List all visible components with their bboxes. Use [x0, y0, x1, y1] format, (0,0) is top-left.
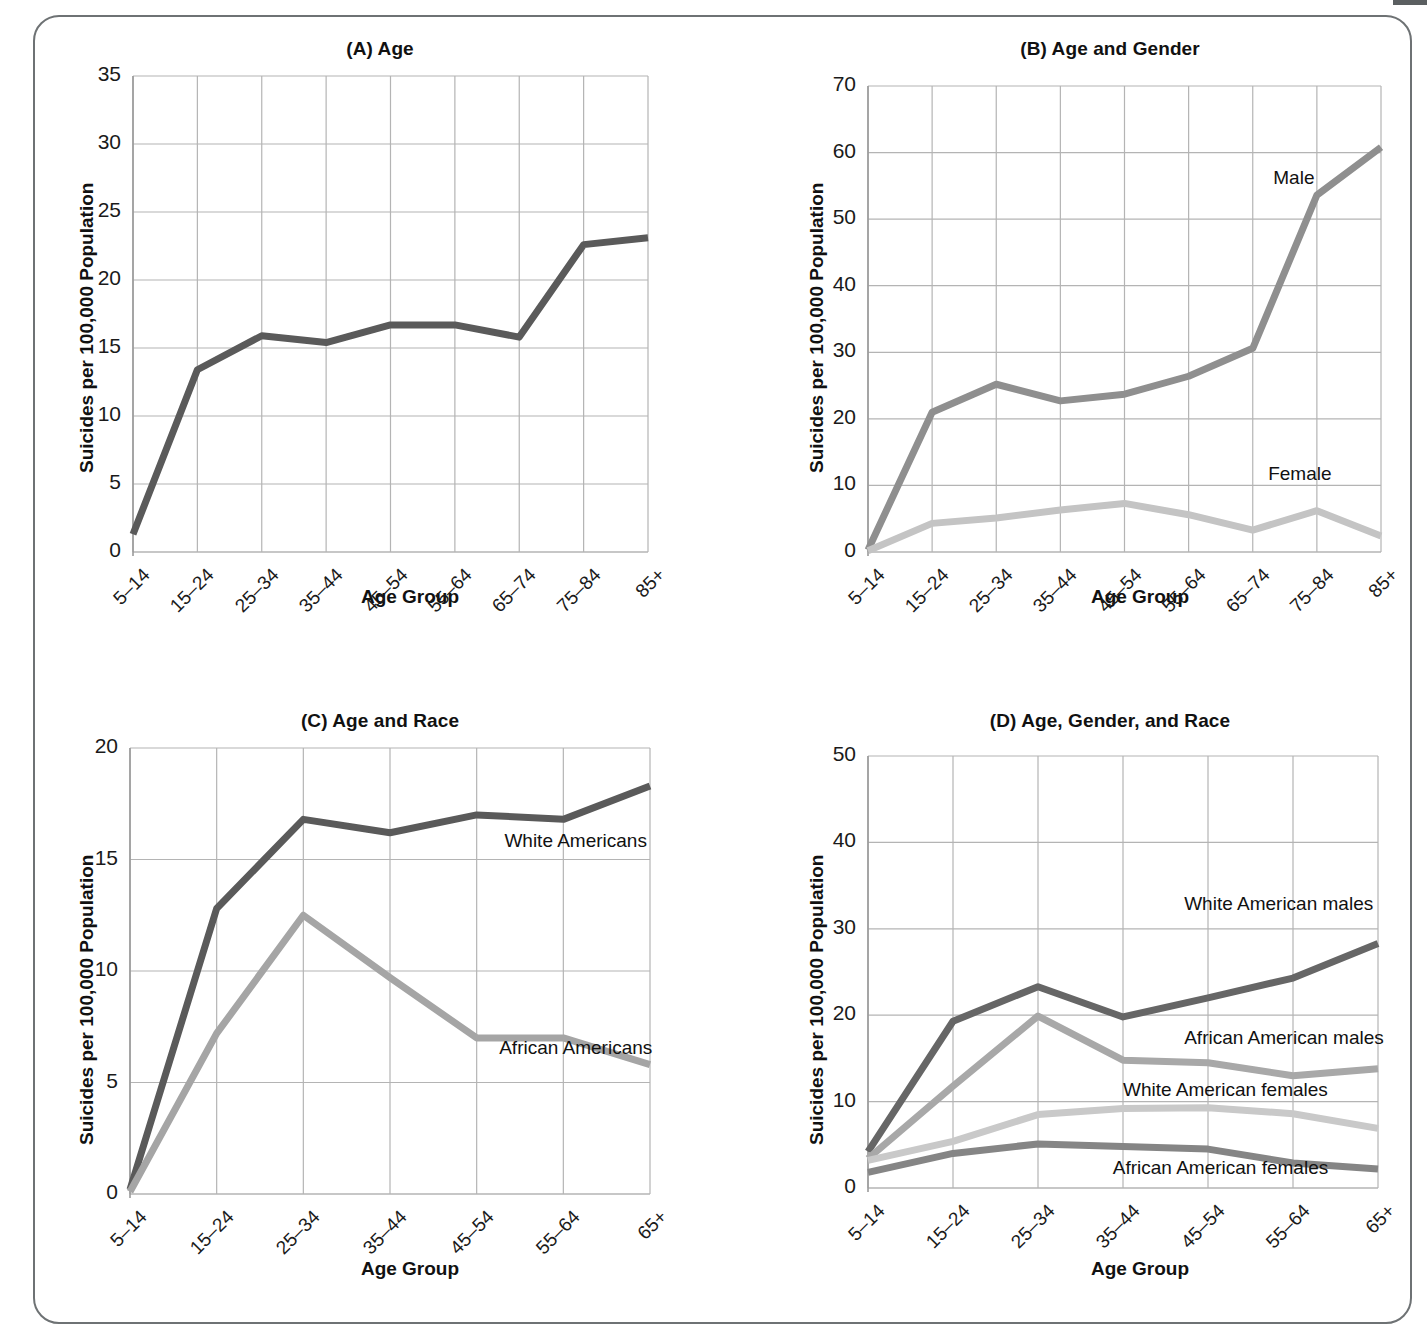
y-tick-label: 20	[802, 1001, 856, 1025]
y-tick-label: 25	[67, 198, 121, 222]
y-tick-label: 10	[802, 471, 856, 495]
page-edge-marker	[1393, 0, 1427, 5]
y-tick-label: 10	[64, 957, 118, 981]
y-tick-label: 5	[64, 1069, 118, 1093]
chart-c-plot	[70, 710, 690, 1270]
y-tick-label: 15	[67, 334, 121, 358]
chart-panel-b: (B) Age and Gender Suicides per 100,000 …	[800, 38, 1420, 628]
chart-panel-a: (A) Age Suicides per 100,000 Population …	[70, 38, 690, 628]
y-tick-label: 70	[802, 72, 856, 96]
series-label-c-0: White Americans	[504, 830, 647, 852]
y-tick-label: 20	[64, 734, 118, 758]
series-label-b-0: Male	[1273, 167, 1314, 189]
y-tick-label: 50	[802, 205, 856, 229]
y-tick-label: 40	[802, 272, 856, 296]
y-tick-label: 5	[67, 470, 121, 494]
chart-panel-c: (C) Age and Race Suicides per 100,000 Po…	[70, 710, 690, 1300]
y-tick-label: 30	[67, 130, 121, 154]
y-tick-label: 0	[64, 1180, 118, 1204]
chart-panel-d: (D) Age, Gender, and Race Suicides per 1…	[800, 710, 1420, 1300]
chart-a-plot	[70, 38, 690, 598]
y-tick-label: 10	[67, 402, 121, 426]
series-label-d-2: White American females	[1123, 1079, 1328, 1101]
y-tick-label: 10	[802, 1088, 856, 1112]
series-label-d-0: White American males	[1184, 893, 1373, 915]
y-tick-label: 15	[64, 846, 118, 870]
series-label-c-1: African Americans	[499, 1037, 652, 1059]
y-tick-label: 40	[802, 828, 856, 852]
y-tick-label: 30	[802, 915, 856, 939]
y-tick-label: 50	[802, 742, 856, 766]
y-tick-label: 60	[802, 139, 856, 163]
series-label-b-1: Female	[1268, 463, 1331, 485]
y-tick-label: 0	[802, 538, 856, 562]
series-label-d-3: African American females	[1113, 1157, 1328, 1179]
y-tick-label: 0	[67, 538, 121, 562]
y-tick-label: 20	[67, 266, 121, 290]
chart-d-plot	[800, 710, 1420, 1270]
series-label-d-1: African American males	[1184, 1027, 1384, 1049]
y-tick-label: 30	[802, 338, 856, 362]
y-tick-label: 0	[802, 1174, 856, 1198]
y-tick-label: 35	[67, 62, 121, 86]
y-tick-label: 20	[802, 405, 856, 429]
chart-b-plot	[800, 38, 1420, 598]
